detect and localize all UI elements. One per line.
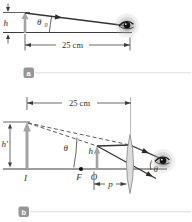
theta-arc: [74, 138, 77, 168]
eye-icon: [151, 149, 175, 173]
panel-b-badge-label: b: [21, 208, 26, 217]
panel-b-badge: b: [19, 207, 30, 218]
optics-diagram: h θ 0 25 cm: [0, 0, 192, 222]
dashed-ray-lower: [28, 123, 97, 146]
theta-label: θ: [64, 143, 69, 153]
eye-icon: [115, 14, 139, 38]
theta0-subscript: 0: [45, 22, 48, 28]
panel-a-badge: a: [24, 68, 35, 79]
h-label-b: h: [89, 146, 94, 156]
object-arrow-a: [22, 12, 29, 33]
theta0-label: θ: [37, 17, 42, 27]
theta0-arc: [49, 17, 51, 33]
dashed-ray-upper: [28, 123, 130, 145]
figure-canvas: h θ 0 25 cm: [0, 0, 192, 222]
distance-label-a: 25 cm: [62, 40, 83, 50]
object-arrow-b: [94, 146, 100, 169]
p-label: p: [107, 179, 113, 189]
panel-a: h θ 0 25 cm: [3, 4, 139, 51]
h-prime-label: h′: [2, 139, 10, 149]
panel-b: 25 cm h′ I θ F O h: [2, 97, 176, 194]
h-prime-dimension: [8, 124, 12, 168]
focal-label: F: [75, 172, 82, 182]
image-arrow: [23, 122, 31, 169]
distance-label-b: 25 cm: [69, 98, 90, 108]
image-label: I: [23, 173, 28, 183]
h-label-a: h: [4, 18, 9, 28]
converging-lens: [127, 135, 134, 194]
focal-point-dot: [79, 167, 83, 171]
